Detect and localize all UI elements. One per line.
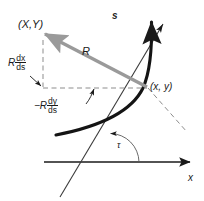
normal-dashed-extension	[148, 88, 187, 132]
component-horizontal-numerator: dy	[47, 97, 58, 106]
radius-vector	[45, 34, 147, 87]
label-point-xy: (x, y)	[150, 82, 172, 92]
curvature-diagram-figure: (X,Y) (x, y) R s x τ Rdxds −Rdyds	[0, 0, 204, 201]
component-vertical-fraction: dxds	[15, 54, 26, 73]
label-point-XY: (X,Y)	[18, 19, 43, 30]
component-vertical-pointer	[30, 76, 41, 86]
label-vector-R: R	[82, 46, 90, 57]
component-horizontal-pointer	[86, 89, 94, 104]
label-angle-tau: τ	[117, 141, 120, 150]
component-horizontal-fraction: dyds	[47, 97, 58, 116]
label-component-vertical: Rdxds	[8, 54, 26, 73]
label-axis-x: x	[188, 173, 193, 183]
component-vertical-numerator: dx	[15, 54, 26, 63]
diagram-canvas	[0, 0, 204, 201]
component-horizontal-denominator: ds	[47, 105, 58, 115]
component-vertical-denominator: ds	[15, 62, 26, 72]
component-horizontal-coefficient: −R	[34, 100, 47, 111]
component-vertical-coefficient: R	[8, 57, 15, 68]
arc-length-curve	[56, 22, 152, 135]
label-arc-length-s: s	[112, 11, 118, 21]
tau-angle-arc	[111, 134, 140, 163]
label-component-horizontal: −Rdyds	[34, 97, 58, 116]
